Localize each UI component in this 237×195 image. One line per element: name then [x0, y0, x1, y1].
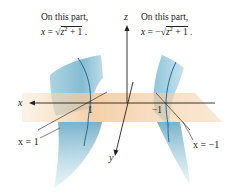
left-sheet-lower — [54, 122, 102, 188]
callout-x-eq-neg1: x = −1 — [193, 139, 219, 150]
sqrt-right: √z2 + 1 — [161, 23, 188, 38]
callout-x-eq-1: x = 1 — [18, 136, 39, 147]
caption-right: On this part, x = −√z2 + 1 . — [141, 12, 192, 38]
diagram-canvas — [0, 0, 237, 195]
y-axis-label: y — [109, 152, 113, 163]
sqrt-left: √z2 + 1 — [55, 23, 82, 38]
caption-right-equation: x = −√z2 + 1 . — [141, 23, 192, 38]
tick-label-1: 1 — [88, 105, 93, 115]
right-sheet-lower — [157, 122, 190, 185]
y-axis-arrow — [114, 150, 119, 157]
caption-left: On this part, x = √z2 + 1 . — [41, 12, 88, 38]
xy-plane — [22, 93, 222, 122]
caption-right-line1: On this part, — [141, 12, 192, 23]
tick-label-neg1: −1 — [152, 105, 162, 115]
callout-leader-left — [40, 128, 60, 138]
callout-leader-right — [183, 122, 193, 140]
caption-left-equation: x = √z2 + 1 . — [41, 23, 88, 38]
x-axis-label: x — [18, 97, 22, 108]
caption-left-line1: On this part, — [41, 12, 88, 23]
z-axis-label: z — [124, 11, 128, 22]
z-axis-arrow — [125, 25, 130, 31]
